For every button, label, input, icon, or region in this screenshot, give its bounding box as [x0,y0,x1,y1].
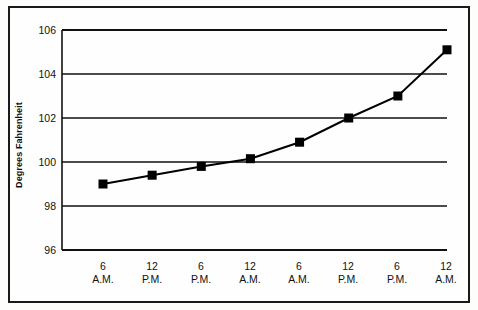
data-point-2 [197,162,206,171]
data-point-1 [148,171,157,180]
data-point-6 [393,92,402,101]
plot-area: Degrees Fahrenheit 106 104 102 100 98 96… [0,0,478,310]
gridlines-group [62,30,447,250]
data-markers-group [99,45,452,188]
data-point-4 [295,138,304,147]
chart-figure: Degrees Fahrenheit 106 104 102 100 98 96… [0,0,478,310]
chart-canvas [0,0,478,310]
data-point-0 [99,180,108,189]
data-point-3 [246,154,255,163]
data-point-7 [443,45,452,54]
data-line [103,50,447,184]
data-point-5 [344,114,353,123]
